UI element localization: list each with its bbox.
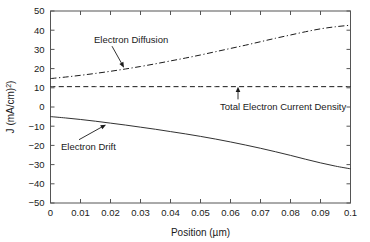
annotation-leader-electron-diffusion: [112, 46, 122, 64]
annotation-group: Electron DiffusionTotal Electron Current…: [61, 34, 346, 153]
y-axis-title-text: J (mA/cm)2): [5, 81, 16, 134]
annotation-label-total-electron-current-density: Total Electron Current Density: [220, 101, 346, 112]
y-tick-label: −30: [28, 159, 44, 170]
y-tick-label: 20: [34, 63, 45, 74]
annotation-label-electron-drift: Electron Drift: [61, 141, 116, 152]
y-tick-label: −40: [28, 178, 44, 189]
y-tick-label: −50: [28, 197, 44, 208]
x-axis-title: Position (µm): [171, 227, 230, 238]
x-tick-label: 0.1: [344, 207, 357, 218]
x-tick-label: 0: [48, 207, 53, 218]
y-tick-label: 10: [34, 82, 45, 93]
x-tick-label: 0.08: [281, 207, 300, 218]
x-tick-label: 0.09: [311, 207, 330, 218]
y-axis-title: J (mA/cm)2): [5, 81, 16, 134]
x-tick-label: 0.07: [251, 207, 270, 218]
y-tick-label: 0: [39, 101, 44, 112]
y-tick-label: 40: [34, 25, 45, 36]
chart-figure: 50403020100−10−20−30−40−50 00.010.020.03…: [0, 0, 370, 242]
y-tick-label: 50: [34, 5, 45, 16]
x-tick-label: 0.06: [221, 207, 240, 218]
annotation-leader-electron-drift: [79, 127, 102, 140]
x-tick-label: 0.04: [161, 207, 180, 218]
annotation-label-electron-diffusion: Electron Diffusion: [94, 34, 168, 45]
x-tick-label: 0.03: [131, 207, 150, 218]
x-tick-label: 0.01: [71, 207, 90, 218]
y-tick-label: −10: [28, 121, 44, 132]
y-tick-label: 30: [34, 44, 45, 55]
x-tick-label: 0.05: [191, 207, 210, 218]
current-density-vs-position-chart: 50403020100−10−20−30−40−50 00.010.020.03…: [0, 0, 370, 242]
annotation-arrow-total-electron-current-density: [236, 87, 241, 92]
y-tick-label: −20: [28, 140, 44, 151]
x-tick-label: 0.02: [101, 207, 120, 218]
